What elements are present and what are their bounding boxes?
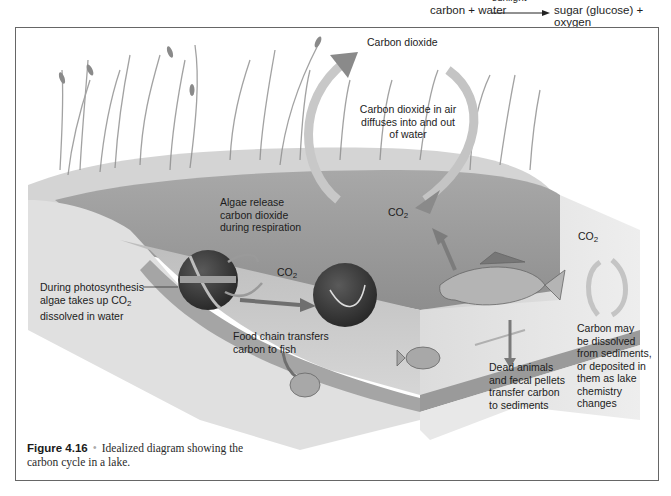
label-carbon-dioxide: Carbon dioxide	[367, 36, 438, 49]
label-food-chain: Food chain transferscarbon to fish	[233, 330, 329, 355]
label-photosynthesis: During photosynthesis algae takes up CO2…	[40, 281, 144, 323]
cattail-heads	[58, 36, 323, 96]
label-co2-water: CO2	[388, 206, 408, 223]
caption-separator: •	[93, 442, 97, 454]
figure-number: Figure 4.16	[27, 442, 88, 454]
label-algae-respiration: Algae releasecarbon dioxideduring respir…	[220, 196, 301, 234]
label-co2-algae: CO2	[277, 266, 297, 283]
label-co2-sediment: CO2	[578, 230, 598, 247]
label-sediment-exchange: Carbon maybe dissolved from sediments,or…	[577, 322, 652, 410]
plankton-sphere	[313, 263, 377, 327]
label-diffusion: Carbon dioxide in airdiffuses into and o…	[353, 103, 463, 141]
label-dead-animals: Dead animalsand fecal pellets transfer c…	[489, 361, 565, 411]
lake-cross-section-illustration	[0, 0, 671, 496]
figure-caption: Figure 4.16•Idealized diagram showing th…	[27, 441, 277, 469]
